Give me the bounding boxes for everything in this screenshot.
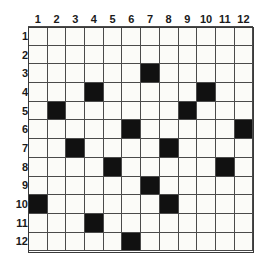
grid-cell-r3-c2[interactable] xyxy=(47,64,66,83)
grid-cell-r7-c9[interactable] xyxy=(178,139,197,158)
grid-cell-r4-c2[interactable] xyxy=(47,83,66,102)
grid-cell-r9-c4[interactable] xyxy=(85,176,104,195)
grid-cell-r4-c1[interactable] xyxy=(29,83,48,102)
grid-cell-r3-c7[interactable] xyxy=(141,64,160,83)
grid-cell-r3-c3[interactable] xyxy=(66,64,85,83)
grid-cell-r11-c2[interactable] xyxy=(47,213,66,232)
grid-cell-r6-c8[interactable] xyxy=(159,120,178,139)
grid-cell-r6-c2[interactable] xyxy=(47,120,66,139)
grid-cell-r3-c11[interactable] xyxy=(215,64,234,83)
grid-cell-r11-c10[interactable] xyxy=(197,213,216,232)
grid-cell-r3-c1[interactable] xyxy=(29,64,48,83)
grid-cell-r8-c10[interactable] xyxy=(197,157,216,176)
grid-cell-r4-c8[interactable] xyxy=(159,83,178,102)
grid-cell-r7-c10[interactable] xyxy=(197,139,216,158)
grid-cell-r6-c3[interactable] xyxy=(66,120,85,139)
grid-cell-r12-c8[interactable] xyxy=(159,232,178,251)
grid-cell-r1-c8[interactable] xyxy=(159,27,178,46)
grid-cell-r5-c6[interactable] xyxy=(122,101,141,120)
grid-cell-r10-c7[interactable] xyxy=(141,195,160,214)
grid-cell-r5-c8[interactable] xyxy=(159,101,178,120)
grid-cell-r8-c9[interactable] xyxy=(178,157,197,176)
grid-cell-r12-c11[interactable] xyxy=(215,232,234,251)
grid-cell-r11-c8[interactable] xyxy=(159,213,178,232)
grid-cell-r1-c3[interactable] xyxy=(66,27,85,46)
grid-cell-r5-c3[interactable] xyxy=(66,101,85,120)
grid-cell-r8-c3[interactable] xyxy=(66,157,85,176)
grid-cell-r4-c9[interactable] xyxy=(178,83,197,102)
grid-cell-r10-c9[interactable] xyxy=(178,195,197,214)
grid-cell-r8-c6[interactable] xyxy=(122,157,141,176)
grid-cell-r11-c1[interactable] xyxy=(29,213,48,232)
grid-cell-r9-c12[interactable] xyxy=(234,176,253,195)
grid-cell-r7-c8[interactable] xyxy=(159,139,178,158)
grid-cell-r6-c7[interactable] xyxy=(141,120,160,139)
grid-cell-r2-c1[interactable] xyxy=(29,45,48,64)
grid-cell-r10-c3[interactable] xyxy=(66,195,85,214)
grid-cell-r7-c2[interactable] xyxy=(47,139,66,158)
grid-cell-r3-c4[interactable] xyxy=(85,64,104,83)
grid-cell-r7-c1[interactable] xyxy=(29,139,48,158)
grid-cell-r4-c11[interactable] xyxy=(215,83,234,102)
grid-cell-r4-c5[interactable] xyxy=(103,83,122,102)
grid-cell-r9-c3[interactable] xyxy=(66,176,85,195)
grid-cell-r11-c9[interactable] xyxy=(178,213,197,232)
grid-cell-r6-c6[interactable] xyxy=(122,120,141,139)
grid-cell-r8-c1[interactable] xyxy=(29,157,48,176)
grid-cell-r6-c11[interactable] xyxy=(215,120,234,139)
grid-cell-r3-c10[interactable] xyxy=(197,64,216,83)
grid-cell-r1-c2[interactable] xyxy=(47,27,66,46)
grid-cell-r4-c12[interactable] xyxy=(234,83,253,102)
grid-cell-r3-c6[interactable] xyxy=(122,64,141,83)
grid-cell-r12-c6[interactable] xyxy=(122,232,141,251)
grid-cell-r10-c6[interactable] xyxy=(122,195,141,214)
grid-cell-r1-c12[interactable] xyxy=(234,27,253,46)
grid-cell-r7-c6[interactable] xyxy=(122,139,141,158)
grid-cell-r7-c12[interactable] xyxy=(234,139,253,158)
grid-cell-r7-c3[interactable] xyxy=(66,139,85,158)
grid-cell-r2-c11[interactable] xyxy=(215,45,234,64)
grid-cell-r5-c12[interactable] xyxy=(234,101,253,120)
grid-cell-r10-c11[interactable] xyxy=(215,195,234,214)
grid-cell-r4-c3[interactable] xyxy=(66,83,85,102)
grid-cell-r6-c1[interactable] xyxy=(29,120,48,139)
grid-cell-r12-c9[interactable] xyxy=(178,232,197,251)
grid-cell-r10-c8[interactable] xyxy=(159,195,178,214)
grid-cell-r4-c10[interactable] xyxy=(197,83,216,102)
grid-cell-r5-c2[interactable] xyxy=(47,101,66,120)
grid-cell-r10-c5[interactable] xyxy=(103,195,122,214)
grid-cell-r1-c1[interactable] xyxy=(29,27,48,46)
grid-cell-r11-c6[interactable] xyxy=(122,213,141,232)
grid-cell-r7-c5[interactable] xyxy=(103,139,122,158)
grid-cell-r9-c8[interactable] xyxy=(159,176,178,195)
grid-cell-r2-c12[interactable] xyxy=(234,45,253,64)
grid-cell-r7-c7[interactable] xyxy=(141,139,160,158)
grid-cell-r3-c12[interactable] xyxy=(234,64,253,83)
grid-cell-r5-c1[interactable] xyxy=(29,101,48,120)
grid-cell-r11-c4[interactable] xyxy=(85,213,104,232)
grid-cell-r12-c4[interactable] xyxy=(85,232,104,251)
grid-cell-r12-c12[interactable] xyxy=(234,232,253,251)
grid-cell-r8-c7[interactable] xyxy=(141,157,160,176)
grid-cell-r11-c7[interactable] xyxy=(141,213,160,232)
grid-cell-r10-c1[interactable] xyxy=(29,195,48,214)
grid-cell-r2-c8[interactable] xyxy=(159,45,178,64)
grid-cell-r1-c4[interactable] xyxy=(85,27,104,46)
grid-cell-r9-c10[interactable] xyxy=(197,176,216,195)
grid-cell-r7-c4[interactable] xyxy=(85,139,104,158)
grid-cell-r9-c7[interactable] xyxy=(141,176,160,195)
grid-cell-r8-c2[interactable] xyxy=(47,157,66,176)
grid-cell-r2-c10[interactable] xyxy=(197,45,216,64)
grid-cell-r2-c5[interactable] xyxy=(103,45,122,64)
grid-cell-r8-c5[interactable] xyxy=(103,157,122,176)
grid-cell-r7-c11[interactable] xyxy=(215,139,234,158)
grid-cell-r12-c5[interactable] xyxy=(103,232,122,251)
grid-cell-r2-c7[interactable] xyxy=(141,45,160,64)
grid-cell-r12-c3[interactable] xyxy=(66,232,85,251)
grid-cell-r6-c10[interactable] xyxy=(197,120,216,139)
grid-cell-r5-c7[interactable] xyxy=(141,101,160,120)
grid-cell-r2-c4[interactable] xyxy=(85,45,104,64)
grid-cell-r1-c10[interactable] xyxy=(197,27,216,46)
grid-cell-r1-c6[interactable] xyxy=(122,27,141,46)
grid-cell-r5-c10[interactable] xyxy=(197,101,216,120)
